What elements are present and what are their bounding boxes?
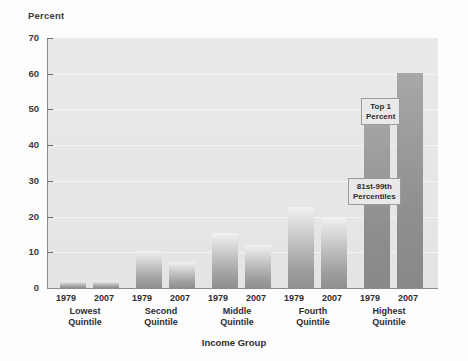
bar-fourth-1979 [288, 207, 314, 288]
x-group-highest-name: Highest Quintile [351, 306, 427, 327]
bar-highest-2007 [397, 73, 423, 288]
x-group-middle-years: 1979 2007 [199, 293, 275, 303]
y-tick-mark-10 [47, 252, 53, 253]
x-group-fourth: 1979 2007 Fourth Quintile [275, 293, 351, 327]
x-group-second-years: 1979 2007 [123, 293, 199, 303]
x-year-fourth-1979: 1979 [275, 293, 313, 303]
bar-lowest-2007 [93, 281, 119, 288]
x-group-fourth-name: Fourth Quintile [275, 306, 351, 327]
x-year-fourth-2007: 2007 [313, 293, 351, 303]
y-tick-50: 50 [0, 103, 47, 115]
x-group-fourth-years: 1979 2007 [275, 293, 351, 303]
x-group-lowest-line2: Quintile [47, 317, 123, 328]
y-tick-mark-30 [47, 181, 53, 182]
x-group-second-line2: Quintile [123, 317, 199, 328]
x-axis-label: Income Group [0, 337, 468, 348]
x-group-second-name: Second Quintile [123, 306, 199, 327]
x-group-highest-line1: Highest [351, 306, 427, 317]
x-group-lowest-name: Lowest Quintile [47, 306, 123, 327]
x-year-highest-1979: 1979 [351, 293, 389, 303]
x-group-highest-years: 1979 2007 [351, 293, 427, 303]
annotation-top-1-percent: Top 1 Percent [361, 98, 400, 125]
plot-area: Top 1 Percent 81st-99th Percentiles [47, 38, 438, 288]
x-group-highest-line2: Quintile [351, 317, 427, 328]
bar-second-2007 [169, 262, 195, 288]
y-tick-mark-40 [47, 145, 53, 146]
x-group-middle-line2: Quintile [199, 317, 275, 328]
x-group-middle-line1: Middle [199, 306, 275, 317]
chart-container: Percent Top 1 Percent 81st-99th [0, 0, 468, 361]
bar-lowest-1979 [60, 281, 86, 288]
bar-middle-2007 [245, 245, 271, 288]
x-group-lowest-line1: Lowest [47, 306, 123, 317]
x-year-highest-2007: 2007 [389, 293, 427, 303]
y-tick-mark-70 [47, 38, 53, 39]
y-tick-70: 70 [0, 32, 47, 44]
x-year-lowest-2007: 2007 [85, 293, 123, 303]
x-group-fourth-line1: Fourth [275, 306, 351, 317]
gridline-60 [48, 74, 438, 75]
x-year-second-1979: 1979 [123, 293, 161, 303]
bar-middle-1979 [212, 233, 238, 288]
x-group-lowest: 1979 2007 Lowest Quintile [47, 293, 123, 327]
y-tick-mark-60 [47, 74, 53, 75]
x-group-middle-name: Middle Quintile [199, 306, 275, 327]
x-group-middle: 1979 2007 Middle Quintile [199, 293, 275, 327]
y-axis-label: Percent [28, 10, 64, 21]
y-tick-10: 10 [0, 246, 47, 258]
y-tick-20: 20 [0, 211, 47, 223]
annotation-81st-99th-line2: Percentiles [353, 192, 396, 202]
x-group-lowest-years: 1979 2007 [47, 293, 123, 303]
x-group-highest: 1979 2007 Highest Quintile [351, 293, 427, 327]
x-year-middle-2007: 2007 [237, 293, 275, 303]
annotation-81st-99th-percentiles: 81st-99th Percentiles [348, 178, 401, 205]
x-axis-line [47, 288, 438, 289]
y-tick-60: 60 [0, 68, 47, 80]
bar-fourth-2007 [321, 217, 347, 288]
x-group-second-line1: Second [123, 306, 199, 317]
y-tick-mark-20 [47, 217, 53, 218]
x-year-lowest-1979: 1979 [47, 293, 85, 303]
x-year-second-2007: 2007 [161, 293, 199, 303]
annotation-top-1-percent-line1: Top 1 [366, 102, 395, 112]
annotation-81st-99th-line1: 81st-99th [353, 182, 396, 192]
x-group-second: 1979 2007 Second Quintile [123, 293, 199, 327]
y-tick-0: 0 [0, 282, 47, 294]
x-year-middle-1979: 1979 [199, 293, 237, 303]
y-tick-30: 30 [0, 175, 47, 187]
bar-second-1979 [136, 251, 162, 288]
y-tick-40: 40 [0, 139, 47, 151]
annotation-top-1-percent-line2: Percent [366, 112, 395, 122]
y-tick-mark-50 [47, 109, 53, 110]
x-group-fourth-line2: Quintile [275, 317, 351, 328]
